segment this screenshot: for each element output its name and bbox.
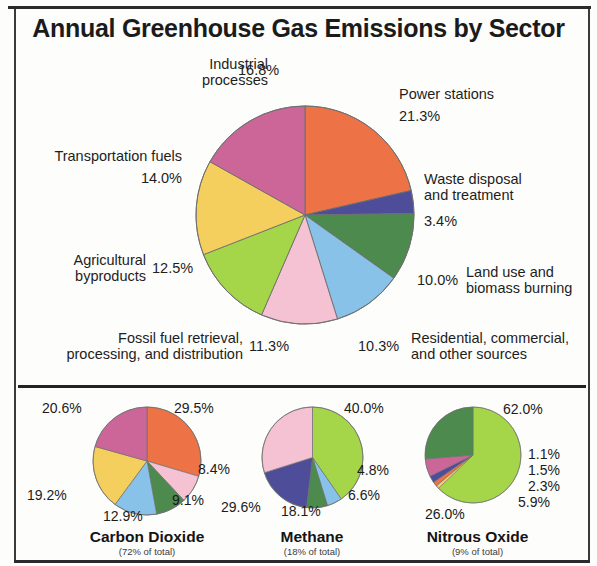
page-border-bottom — [14, 560, 590, 563]
label-land-use-pct: 10.0% — [417, 272, 458, 288]
co2-pct-1: 29.5% — [174, 400, 214, 416]
n2o-pct-6: 26.0% — [425, 506, 465, 522]
label-agricultural-line1: Agricultural — [28, 252, 146, 268]
chart-title: Annual Greenhouse Gas Emissions by Secto… — [0, 14, 597, 43]
label-transportation-name: Transportation fuels — [30, 148, 182, 164]
label-residential-line1: Residential, commercial, — [411, 330, 569, 346]
page-border-left — [14, 9, 16, 562]
label-waste-disposal-line2: and treatment — [424, 187, 522, 203]
label-land-use: Land use and biomass burning — [466, 264, 572, 296]
methane-subtitle: (18% of total) — [232, 546, 392, 557]
n2o-subtitle: (9% of total) — [395, 546, 560, 557]
co2-pct-6: 20.6% — [42, 400, 82, 416]
methane-pct-3: 6.6% — [348, 487, 380, 503]
label-residential: Residential, commercial, and other sourc… — [411, 330, 569, 362]
co2-pct-5: 19.2% — [27, 487, 67, 503]
co2-pct-2: 8.4% — [198, 461, 230, 477]
n2o-pct-2: 1.1% — [528, 446, 560, 462]
pie-slice — [425, 407, 473, 459]
label-land-use-line2: biomass burning — [466, 280, 572, 296]
methane-pct-4: 18.1% — [281, 503, 321, 519]
label-fossil-fuel-pct: 11.3% — [249, 338, 289, 354]
label-waste-disposal-line1: Waste disposal — [424, 171, 522, 187]
label-industrial-processes-pct: 16.8% — [238, 62, 279, 78]
n2o-pct-3: 1.5% — [528, 462, 560, 478]
main-pie-chart — [195, 105, 415, 325]
n2o-pie-svg — [424, 406, 522, 504]
label-power-stations-pct: 21.3% — [399, 108, 440, 124]
label-waste-disposal: Waste disposal and treatment — [424, 171, 522, 203]
n2o-pct-1: 62.0% — [503, 401, 543, 417]
co2-pct-4: 12.9% — [103, 508, 143, 524]
chart-page: Annual Greenhouse Gas Emissions by Secto… — [0, 0, 597, 566]
label-agricultural: Agricultural byproducts — [28, 252, 146, 284]
co2-subtitle: (72% of total) — [57, 546, 237, 557]
n2o-title: Nitrous Oxide — [395, 528, 560, 546]
section-divider — [18, 385, 586, 388]
label-agricultural-line2: byproducts — [28, 268, 146, 284]
label-power-stations-name: Power stations — [399, 86, 494, 102]
label-fossil-fuel-line1: Fossil fuel retrieval, — [66, 330, 243, 346]
n2o-pie-chart — [424, 406, 522, 504]
label-land-use-line1: Land use and — [466, 264, 572, 280]
label-transportation-pct: 14.0% — [30, 170, 182, 186]
n2o-pct-5: 5.9% — [518, 494, 550, 510]
co2-title: Carbon Dioxide — [57, 528, 237, 546]
co2-pct-3: 9.1% — [172, 492, 204, 508]
methane-pct-2: 4.8% — [357, 462, 389, 478]
page-border-top — [8, 6, 591, 9]
label-fossil-fuel-line2: processing, and distribution — [66, 346, 243, 362]
methane-title: Methane — [232, 528, 392, 546]
methane-pct-5: 29.6% — [221, 499, 261, 515]
label-transportation: Transportation fuels — [30, 148, 182, 164]
n2o-pct-4: 2.3% — [528, 478, 560, 494]
label-residential-line2: and other sources — [411, 346, 569, 362]
label-waste-disposal-pct: 3.4% — [424, 213, 457, 229]
page-border-right — [588, 9, 590, 562]
label-power-stations: Power stations — [399, 86, 494, 102]
label-fossil-fuel: Fossil fuel retrieval, processing, and d… — [66, 330, 243, 362]
main-pie-svg — [195, 105, 415, 325]
label-agricultural-pct: 12.5% — [152, 260, 193, 276]
label-residential-pct: 10.3% — [358, 338, 399, 354]
methane-pct-1: 40.0% — [344, 400, 384, 416]
